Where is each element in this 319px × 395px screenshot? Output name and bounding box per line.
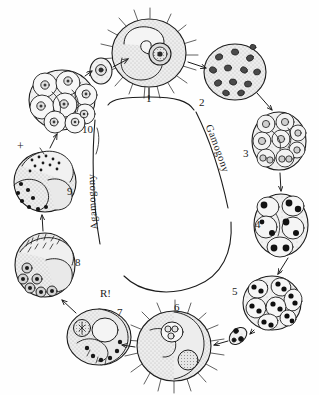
- stage-label-1: 1: [146, 93, 152, 104]
- arrow-3-to-4: [280, 173, 281, 191]
- leader-stage-10: [96, 128, 99, 154]
- stage-4-cell: [254, 194, 308, 257]
- stage-6-cell: [125, 300, 224, 393]
- arrow-1-to-2: [188, 62, 206, 68]
- life-cycle-diagram: Gamogony Agamogony 1 2 3 4 5 6 7 8 9 10 …: [0, 0, 319, 395]
- arrow-8-to-9: [42, 215, 43, 231]
- stage-label-4: 4: [255, 219, 261, 230]
- arrow-spore-to-6: [214, 341, 228, 345]
- cycle-arc-lower: [124, 222, 231, 292]
- stage-1-cell: [100, 8, 198, 99]
- stage-2-cell: [204, 44, 266, 100]
- arrow-9-to-10: [50, 134, 57, 148]
- stage-9-cell: [14, 148, 76, 212]
- small-spore: [226, 324, 250, 348]
- arrow-5-to-spore: [250, 330, 254, 334]
- stage-3-cell: [252, 112, 306, 170]
- stage-label-10: 10: [82, 124, 93, 135]
- stage-label-6: 6: [174, 302, 180, 313]
- plus-sign-label: +: [17, 140, 24, 152]
- arrow-4-to-5: [278, 258, 288, 274]
- stage-8-cell: [15, 233, 75, 297]
- small-released-cell: [90, 58, 112, 84]
- agamogony-label: Agamogony: [86, 173, 100, 230]
- stage-5-cell: [243, 276, 303, 331]
- arrow-7-to-8: [62, 300, 76, 313]
- stage-label-9: 9: [67, 186, 73, 197]
- reduction-division-label: R!: [100, 288, 111, 299]
- stage-label-3: 3: [243, 148, 249, 159]
- stage-label-8: 8: [75, 257, 81, 268]
- stage-label-5: 5: [232, 286, 238, 297]
- stage-label-2: 2: [199, 97, 205, 108]
- stage-label-7: 7: [117, 307, 123, 318]
- arrow-2-to-3: [257, 93, 272, 110]
- diagram-canvas: Gamogony Agamogony: [0, 0, 319, 395]
